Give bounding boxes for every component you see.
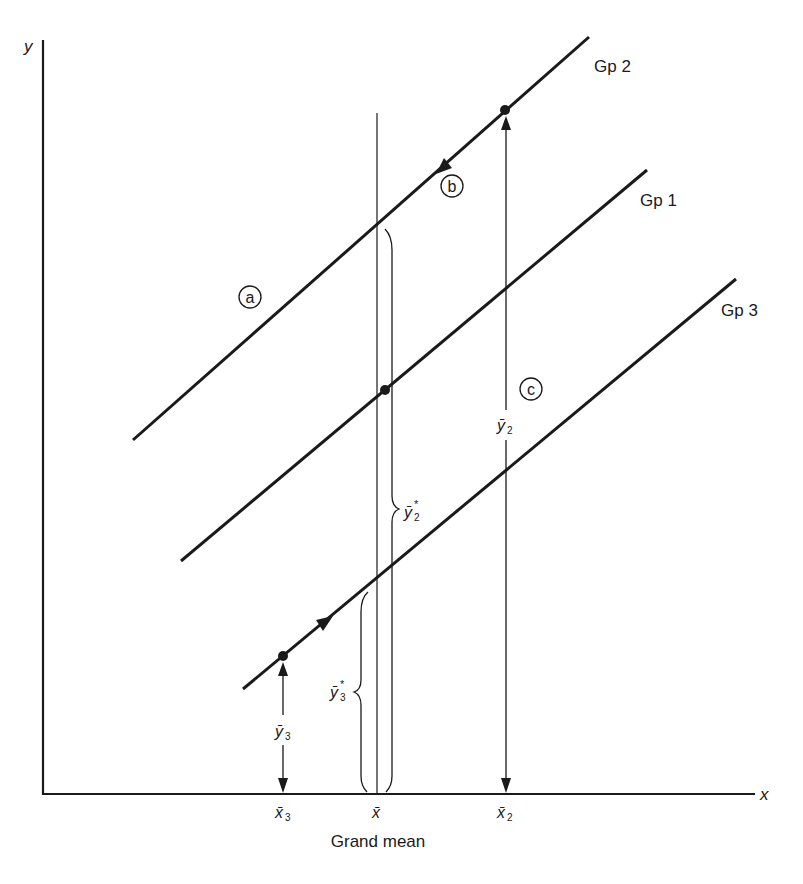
x-axis-label: x xyxy=(759,785,769,804)
svg-text:3: 3 xyxy=(285,731,291,742)
svg-text:x̄: x̄ xyxy=(274,804,284,821)
y2-arrowhead-up-icon xyxy=(501,116,511,130)
svg-text:ȳ: ȳ xyxy=(403,504,413,521)
svg-text:ȳ: ȳ xyxy=(274,723,284,740)
gp2-mean-point xyxy=(500,105,510,115)
marker-b: b xyxy=(441,175,463,197)
svg-text:ȳ: ȳ xyxy=(496,417,506,434)
y3-arrowhead-down-icon xyxy=(278,778,288,793)
y3-bar-label: ȳ 3 xyxy=(274,723,291,742)
y3-star-label: ȳ 3 * xyxy=(329,678,346,703)
svg-text:x̄: x̄ xyxy=(371,804,381,821)
gp3-mean-point xyxy=(278,651,288,661)
marker-c: c xyxy=(520,378,542,400)
x2-bar-tick-label: x̄ 2 xyxy=(496,804,513,823)
y2-arrowhead-down-icon xyxy=(501,778,511,793)
svg-text:2: 2 xyxy=(507,812,513,823)
svg-text:x̄: x̄ xyxy=(496,804,506,821)
y3-arrowhead-up-icon xyxy=(278,662,288,676)
svg-text:b: b xyxy=(448,178,457,195)
grand-mean-label: Grand mean xyxy=(331,832,426,851)
svg-text:ȳ: ȳ xyxy=(329,684,339,701)
y-axis-label: y xyxy=(23,37,34,56)
y3-star-brace xyxy=(354,592,368,792)
gp3-line xyxy=(243,279,736,689)
svg-text:2: 2 xyxy=(414,512,420,523)
svg-text:c: c xyxy=(527,381,535,398)
x-bar-tick-label: x̄ xyxy=(371,804,381,821)
y2-star-brace xyxy=(385,229,399,792)
gp1-label: Gp 1 xyxy=(640,191,677,210)
y2-bar-label: ȳ 2 xyxy=(496,417,513,436)
gp1-mean-point xyxy=(380,385,390,395)
svg-text:2: 2 xyxy=(507,425,513,436)
y2-star-label: ȳ 2 * xyxy=(403,498,420,523)
gp2-label: Gp 2 xyxy=(594,57,631,76)
marker-a: a xyxy=(239,286,261,308)
x3-bar-tick-label: x̄ 3 xyxy=(274,804,291,823)
svg-text:*: * xyxy=(414,498,419,510)
svg-text:3: 3 xyxy=(285,812,291,823)
svg-text:*: * xyxy=(340,678,345,690)
gp3-label: Gp 3 xyxy=(721,301,758,320)
gp2-line xyxy=(133,37,589,440)
svg-text:a: a xyxy=(246,289,255,306)
gp3-direction-arrow-icon xyxy=(316,616,333,631)
regression-diagram: y x Gp 2 Gp 1 Gp 3 a b c ȳ 2 ȳ 3 xyxy=(0,0,803,884)
svg-text:3: 3 xyxy=(340,692,346,703)
